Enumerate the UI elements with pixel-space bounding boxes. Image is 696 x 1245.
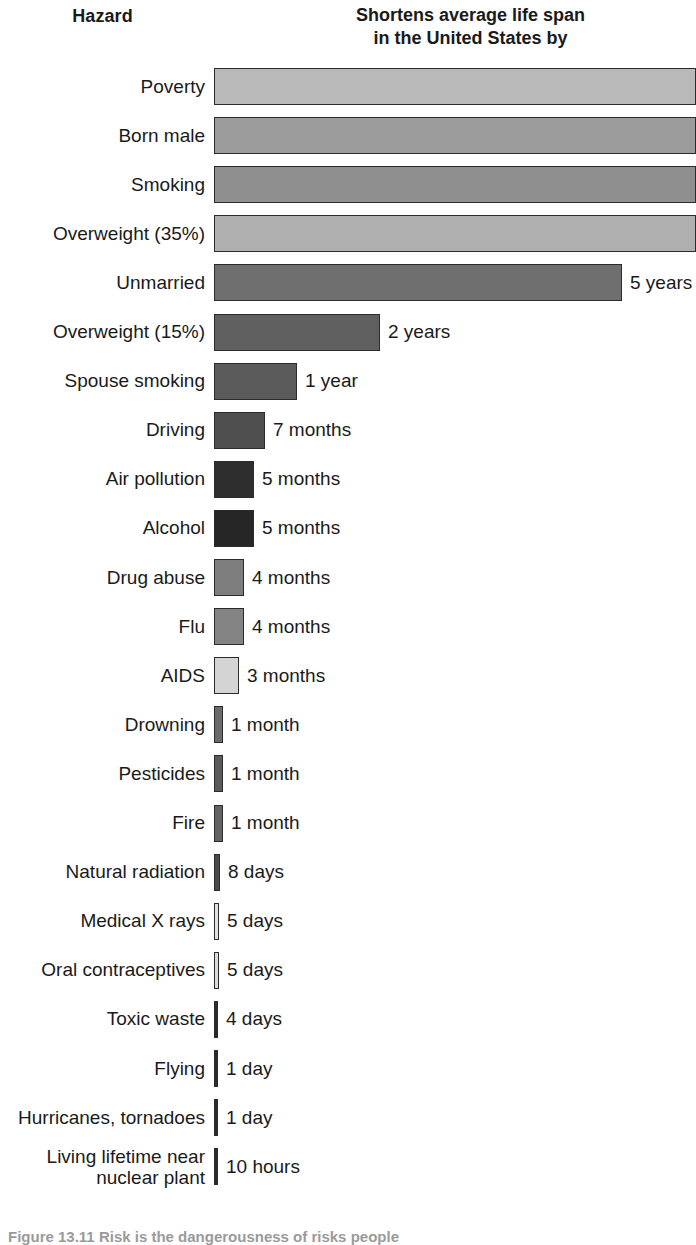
chart-row: Flu4 months — [0, 608, 696, 645]
chart-row: Drowning1 month — [0, 706, 696, 743]
hazard-bar — [214, 363, 297, 400]
bar-value-label: 5 days — [227, 959, 283, 981]
hazard-label: Unmarried — [0, 272, 205, 293]
chart-row: Oral contraceptives5 days — [0, 952, 696, 989]
hazard-bar — [214, 608, 244, 645]
hazard-bar — [214, 706, 223, 743]
hazard-label: Born male — [0, 125, 205, 146]
chart-row: Hurricanes, tornadoes1 day — [0, 1099, 696, 1136]
chart-row: Smoking — [0, 166, 696, 203]
hazard-bar — [214, 461, 254, 498]
hazard-label: Flu — [0, 616, 205, 637]
hazard-bar — [214, 117, 696, 154]
bar-value-label: 1 month — [231, 714, 300, 736]
hazard-bar — [214, 854, 220, 891]
bar-value-label: 1 month — [231, 763, 300, 785]
hazard-label: Air pollution — [0, 469, 205, 490]
chart-row: Drug abuse4 months — [0, 559, 696, 596]
hazard-label: Overweight (35%) — [0, 223, 205, 244]
hazard-label: Medical X rays — [0, 911, 205, 932]
column-header-line-2: in the United States by — [245, 27, 696, 50]
chart-row: Overweight (15%)2 years — [0, 314, 696, 351]
chart-row: Alcohol5 months — [0, 510, 696, 547]
bar-value-label: 10 hours — [226, 1156, 300, 1178]
hazard-label: Living lifetime near nuclear plant — [0, 1145, 205, 1188]
bar-value-label: 5 years — [630, 272, 692, 294]
bar-value-label: 1 year — [305, 370, 358, 392]
hazard-label: Fire — [0, 812, 205, 833]
chart-row: Air pollution5 months — [0, 461, 696, 498]
chart-row: Medical X rays5 days — [0, 903, 696, 940]
hazard-bar — [214, 1148, 218, 1185]
hazard-bar — [214, 559, 244, 596]
hazard-label: Pesticides — [0, 763, 205, 784]
hazard-label: Oral contraceptives — [0, 960, 205, 981]
hazard-label: Drug abuse — [0, 567, 205, 588]
hazard-bar — [214, 755, 223, 792]
column-header-line-1: Shortens average life span — [245, 4, 696, 27]
column-header-hazard: Hazard — [0, 6, 205, 27]
chart-row: Spouse smoking1 year — [0, 363, 696, 400]
chart-row: Natural radiation8 days — [0, 854, 696, 891]
chart-row: Toxic waste4 days — [0, 1001, 696, 1038]
hazard-bar — [214, 1001, 218, 1038]
chart-row: Pesticides1 month — [0, 755, 696, 792]
chart-row: Poverty — [0, 68, 696, 105]
hazard-bar — [214, 1099, 218, 1136]
bar-value-label: 1 day — [226, 1107, 272, 1129]
hazard-label: Natural radiation — [0, 861, 205, 882]
hazard-label: Hurricanes, tornadoes — [0, 1107, 205, 1128]
hazard-label: AIDS — [0, 665, 205, 686]
figure-caption: Figure 13.11 Risk is the dangerousness o… — [8, 1228, 696, 1245]
chart-row: Driving7 months — [0, 412, 696, 449]
hazard-label: Overweight (15%) — [0, 321, 205, 342]
hazard-bar — [214, 952, 219, 989]
bar-value-label: 4 months — [252, 616, 330, 638]
chart-row: Living lifetime near nuclear plant10 hou… — [0, 1148, 696, 1185]
bar-value-label: 4 months — [252, 567, 330, 589]
hazard-bar — [214, 412, 265, 449]
hazard-label: Drowning — [0, 714, 205, 735]
hazard-bar — [214, 264, 622, 301]
hazard-bar — [214, 510, 254, 547]
hazard-label: Driving — [0, 420, 205, 441]
hazard-label: Toxic waste — [0, 1009, 205, 1030]
hazard-bar — [214, 903, 219, 940]
chart-row: Unmarried5 years — [0, 264, 696, 301]
hazard-bar — [214, 215, 696, 252]
chart-row: Overweight (35%) — [0, 215, 696, 252]
column-header-shortens-life-span: Shortens average life span in the United… — [245, 4, 696, 49]
hazard-bar — [214, 657, 239, 694]
chart-row: Fire1 month — [0, 805, 696, 842]
hazard-label: Flying — [0, 1058, 205, 1079]
bar-value-label: 2 years — [388, 321, 450, 343]
hazard-bar — [214, 314, 380, 351]
bar-value-label: 8 days — [228, 861, 284, 883]
hazard-bar — [214, 805, 223, 842]
hazard-bar — [214, 68, 696, 105]
bar-value-label: 1 day — [226, 1058, 272, 1080]
hazard-label: Poverty — [0, 76, 205, 97]
bar-value-label: 5 months — [262, 517, 340, 539]
chart-row: AIDS3 months — [0, 657, 696, 694]
hazard-label: Spouse smoking — [0, 370, 205, 391]
hazard-bar — [214, 1050, 218, 1087]
bar-value-label: 5 days — [227, 910, 283, 932]
hazard-bar — [214, 166, 696, 203]
bar-value-label: 3 months — [247, 665, 325, 687]
chart-row: Born male — [0, 117, 696, 154]
bar-value-label: 4 days — [226, 1008, 282, 1030]
bar-value-label: 7 months — [273, 419, 351, 441]
chart-row: Flying1 day — [0, 1050, 696, 1087]
bar-value-label: 5 months — [262, 468, 340, 490]
hazard-label: Smoking — [0, 174, 205, 195]
hazard-label: Alcohol — [0, 518, 205, 539]
bar-value-label: 1 month — [231, 812, 300, 834]
